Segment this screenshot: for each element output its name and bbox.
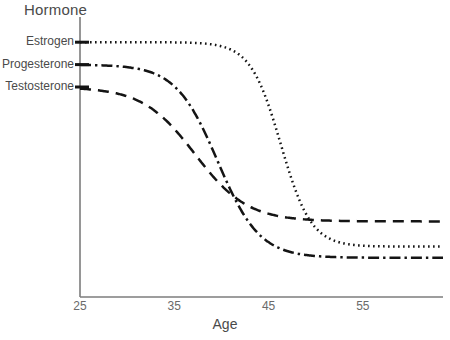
- series-line-progesterone: [80, 65, 443, 258]
- chart-plot-area: [0, 0, 450, 340]
- series-line-estrogen: [80, 42, 443, 246]
- hormone-decline-chart: EstrogenProgesteroneTestosterone 2535455…: [0, 0, 450, 340]
- x-axis-title: Age: [0, 316, 450, 332]
- series-group: [80, 42, 443, 258]
- axes-group: [80, 17, 443, 297]
- series-line-testosterone: [80, 89, 443, 222]
- y-axis-title: Hormone: [24, 1, 87, 18]
- series-start-markers-group: [75, 42, 89, 87]
